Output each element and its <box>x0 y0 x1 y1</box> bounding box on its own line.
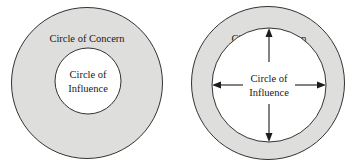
circle-of-influence-label-line2: Influence <box>68 83 108 94</box>
circle-of-influence-label-line2: Influence <box>249 87 289 98</box>
circle-of-influence-label-line1: Circle of <box>250 73 288 84</box>
circle-of-influence-label-line1: Circle of <box>69 69 107 80</box>
figure-container: Circle of Concern Circle of Influence Ci… <box>0 0 362 168</box>
diagram-circle-of-concern-large-influence: Circle of Concern Circle of <box>181 0 362 168</box>
circle-of-concern-label: Circle of Concern <box>49 33 125 44</box>
circle-of-influence-shape <box>55 48 121 114</box>
diagram-circle-of-concern-small-influence: Circle of Concern Circle of Influence <box>0 0 181 168</box>
